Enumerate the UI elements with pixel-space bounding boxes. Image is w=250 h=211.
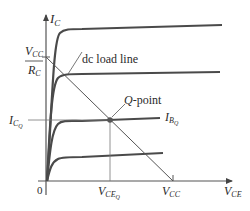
origin-label: 0 bbox=[37, 184, 43, 196]
y-axis-label: IC bbox=[49, 11, 61, 28]
dc-load-line-label: dc load line bbox=[82, 52, 138, 66]
ib-curve-2 bbox=[47, 72, 220, 181]
vcc-over-rc-denominator: RC bbox=[27, 63, 41, 78]
q-point-label: Q-point bbox=[124, 93, 162, 107]
x-axis-label: VCE bbox=[224, 184, 242, 199]
vcc-label: VCC bbox=[162, 184, 181, 199]
vcc-over-rc-numerator: VCC bbox=[25, 44, 44, 59]
vceq-label: VCEQ bbox=[98, 184, 121, 200]
ibq-label: IBQ bbox=[164, 110, 179, 126]
icq-label: ICQ bbox=[8, 113, 23, 129]
characteristic-curves-diagram: IC VCC RC dc load line Q-point ICQ IBQ 0… bbox=[0, 0, 250, 211]
q-point-marker bbox=[107, 117, 113, 123]
ib-curve-4 bbox=[47, 153, 163, 181]
ib-curve-3-ibq bbox=[47, 118, 160, 181]
load-line-leader bbox=[68, 52, 82, 74]
